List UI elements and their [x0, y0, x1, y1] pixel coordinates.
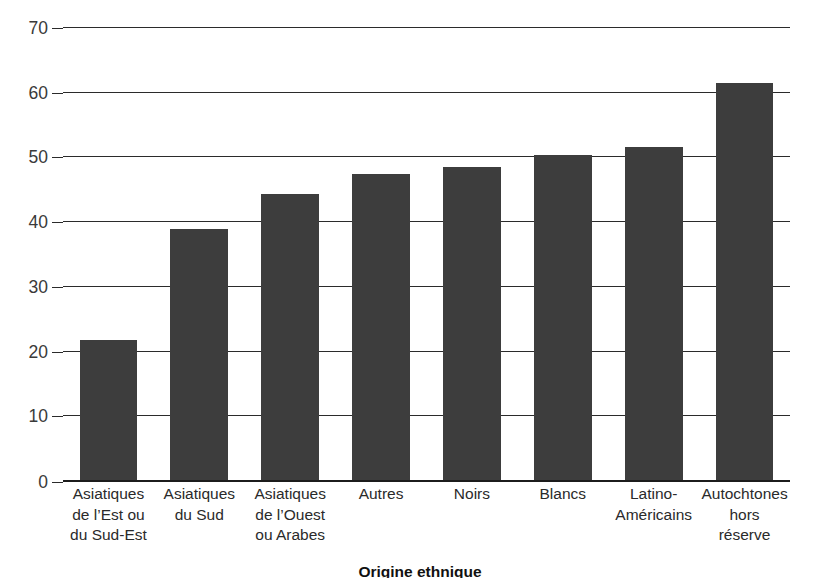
y-axis-tick-mark — [52, 416, 63, 417]
x-axis-tick-label: Autochtones hors réserve — [689, 484, 800, 546]
y-axis-tick-label: 0 — [38, 472, 48, 493]
bar — [534, 155, 592, 481]
y-axis-tick-label: 70 — [29, 18, 48, 39]
y-axis-tick-label: 20 — [29, 341, 48, 362]
y-axis-tick-mark — [52, 157, 63, 158]
bar — [625, 147, 683, 480]
y-axis-tick-mark — [52, 93, 63, 94]
y-axis-tick-mark — [52, 222, 63, 223]
y-axis-tick-mark — [52, 352, 63, 353]
y-axis-tick-mark — [52, 28, 63, 29]
y-axis-tick-mark — [52, 287, 63, 288]
y-axis-tick-label: 10 — [29, 406, 48, 427]
x-axis-title: Origine ethnique — [0, 563, 840, 578]
bar-chart-figure: Pourcentage 010203040506070 Asiatiques d… — [0, 0, 840, 578]
bar — [261, 194, 319, 480]
bar — [716, 83, 774, 480]
bar — [170, 229, 228, 480]
x-axis-baseline: 0 — [63, 480, 790, 482]
bar — [352, 174, 410, 480]
bars-group — [63, 27, 790, 480]
y-axis-tick-label: 30 — [29, 276, 48, 297]
y-axis-tick-label: 40 — [29, 212, 48, 233]
x-axis-tick-labels: Asiatiques de l’Est ou du Sud-EstAsiatiq… — [63, 484, 790, 560]
y-axis-tick-mark — [52, 482, 63, 483]
plot-area: 010203040506070 — [63, 27, 790, 480]
y-axis-tick-label: 50 — [29, 147, 48, 168]
bar — [80, 340, 138, 480]
bar — [443, 167, 501, 480]
y-axis-tick-label: 60 — [29, 82, 48, 103]
